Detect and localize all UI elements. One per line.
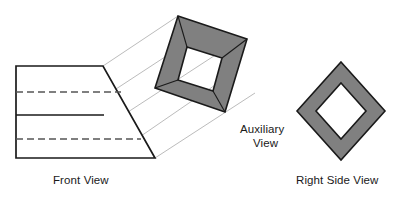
auxiliary-view-label-line2: View [253, 137, 279, 149]
technical-drawing-figure: Front View Auxiliary View Right Side Vie… [0, 0, 409, 201]
right-side-view-label: Right Side View [296, 174, 379, 186]
auxiliary-view-label-line1: Auxiliary [240, 123, 285, 135]
front-view-label: Front View [53, 174, 109, 186]
orthographic-projection-drawing: Front View Auxiliary View Right Side Vie… [0, 0, 409, 201]
